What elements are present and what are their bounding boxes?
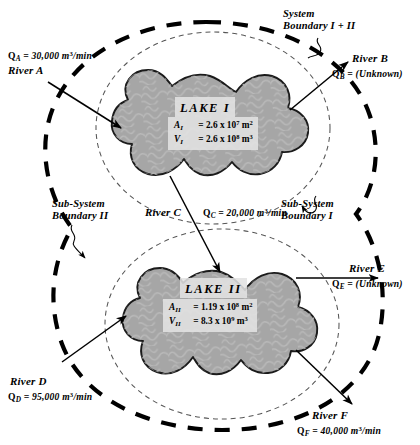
sub-system-ii-leader	[71, 225, 85, 258]
system-boundary-label: System Boundary I + II	[283, 8, 355, 33]
lake-1-stats-box: AI = 2.6 x 107 m2 VI = 2.6 x 108 m3	[168, 117, 258, 150]
river-c-flow-label: QC = 20,000 m3/min	[203, 207, 287, 220]
river-f-name: River F	[312, 409, 348, 422]
river-b-flow-label: QB = (Unknown)	[332, 68, 403, 81]
sub-system-boundary-ii-label: Sub-System Boundary II	[52, 198, 108, 223]
lake-2-stats-box: AII = 1.19 x 108 m2 VII = 8.3 x 109 m3	[163, 299, 257, 332]
river-c-arrow	[170, 176, 220, 272]
river-d-flow-label: QD = 95,000 m3/min	[8, 391, 92, 404]
river-f-flow-label: QF = 40,000 m3/min	[297, 425, 381, 438]
sub-system-boundary-i-label: Sub-System Boundary I	[281, 198, 334, 223]
river-d-arrow	[62, 316, 126, 362]
river-e-flow-label: QE = (Unknown)	[332, 278, 403, 291]
river-a-flow-label: QA = 30,000 m3/min	[8, 50, 92, 63]
river-b-name: River B	[352, 52, 388, 65]
lake-1-area-row: AI = 2.6 x 107 m2	[174, 119, 253, 133]
lake-2-area-row: AII = 1.19 x 108 m2	[169, 301, 252, 315]
lake-2-title-box: LAKE II	[180, 278, 247, 298]
river-a-arrow	[48, 82, 121, 128]
diagram-canvas: System Boundary I + II QA = 30,000 m3/mi…	[0, 0, 420, 445]
river-e-name: River E	[349, 262, 385, 275]
lake-1-title-box: LAKE I	[175, 97, 235, 117]
river-c-name: River C	[145, 206, 181, 219]
lake-2-volume-row: VII = 8.3 x 109 m3	[169, 315, 252, 329]
lake-1-volume-row: VI = 2.6 x 108 m3	[174, 133, 253, 147]
river-d-name: River D	[10, 375, 47, 388]
river-a-name: River A	[8, 64, 44, 77]
river-f-arrow	[296, 350, 352, 404]
